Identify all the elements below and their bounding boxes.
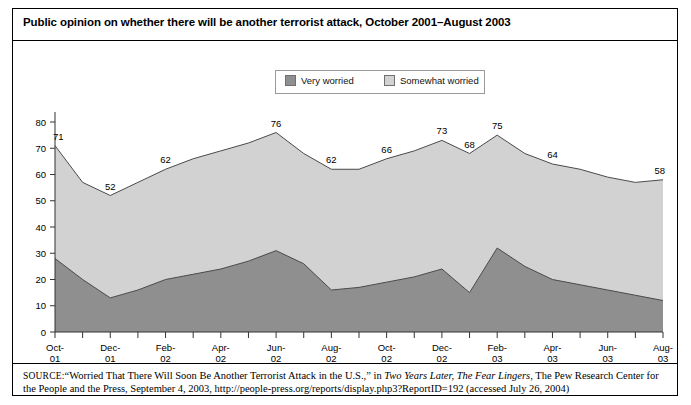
y-axis-tick-label: 0: [41, 327, 46, 338]
title-bar: Public opinion on whether there will be …: [13, 9, 677, 41]
x-axis-tick-label: Dec-: [432, 342, 452, 353]
source-note: SOURCE:“Worried That There Will Soon Be …: [13, 363, 677, 395]
y-axis-tick-label: 30: [35, 248, 46, 259]
x-axis-tick-label: Aug-: [653, 342, 673, 353]
data-point-label: 75: [492, 120, 503, 131]
x-axis-tick-label: Apr-: [212, 342, 230, 353]
x-axis-tick-label: Oct-: [46, 342, 64, 353]
data-point-label: 62: [160, 154, 171, 165]
data-point-label: 52: [105, 181, 116, 192]
y-axis-tick-label: 70: [35, 143, 46, 154]
y-axis-tick-label: 40: [35, 222, 46, 233]
chart-series-layer: [55, 133, 663, 333]
y-axis-tick-label: 20: [35, 274, 46, 285]
data-point-label: 58: [654, 165, 665, 176]
x-axis-tick-label: Dec-: [100, 342, 120, 353]
data-point-label: 62: [326, 154, 337, 165]
source-publication-title: Two Years Later, The Fear Lingers,: [384, 370, 533, 381]
page-title: Public opinion on whether there will be …: [23, 16, 511, 28]
area-chart-svg: 01020304050607080Oct-01Dec-01Feb-02Apr-0…: [13, 41, 677, 363]
data-point-label: 73: [437, 125, 448, 136]
x-axis-tick-label: Feb-: [487, 342, 507, 353]
x-axis-tick-label: 02: [437, 353, 448, 363]
x-axis-tick-label: 01: [50, 353, 61, 363]
data-point-label: 71: [53, 131, 64, 142]
x-axis-tick-label: Jun-: [598, 342, 616, 353]
source-part-one: “Worried That There Will Soon Be Another…: [65, 370, 385, 381]
y-axis-tick-label: 80: [35, 117, 46, 128]
data-point-label: 68: [464, 139, 475, 150]
x-axis-tick-label: 02: [271, 353, 282, 363]
x-axis-tick-label: Oct-: [378, 342, 396, 353]
x-axis-tick-label: 03: [547, 353, 558, 363]
x-axis-tick-label: 03: [658, 353, 669, 363]
x-axis-tick-label: 02: [160, 353, 171, 363]
x-axis-tick-label: 02: [381, 353, 392, 363]
y-axis-tick-label: 60: [35, 169, 46, 180]
figure-panel: Public opinion on whether there will be …: [12, 8, 678, 396]
x-axis-tick-label: 03: [602, 353, 613, 363]
data-point-label: 76: [271, 118, 282, 129]
x-axis-tick-label: Aug-: [321, 342, 341, 353]
x-axis-tick-label: 02: [216, 353, 227, 363]
data-point-label: 66: [381, 144, 392, 155]
x-axis-tick-label: 01: [105, 353, 116, 363]
x-axis-tick-label: Feb-: [156, 342, 176, 353]
source-note-text: SOURCE:“Worried That There Will Soon Be …: [23, 370, 667, 395]
data-point-label: 64: [547, 149, 558, 160]
y-axis-tick-label: 50: [35, 195, 46, 206]
x-axis-tick-label: 03: [492, 353, 503, 363]
x-axis-tick-label: Apr-: [543, 342, 561, 353]
plot-area: Very worried Somewhat worried 0102030405…: [13, 41, 677, 363]
x-axis-tick-label: 02: [326, 353, 337, 363]
source-label: SOURCE:: [23, 371, 65, 381]
x-axis-tick-label: Jun-: [267, 342, 285, 353]
y-axis-tick-label: 10: [35, 300, 46, 311]
